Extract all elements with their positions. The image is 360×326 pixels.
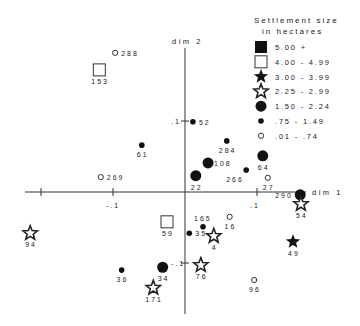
point-label: 266	[226, 176, 244, 183]
legend-entry: .01 - .74	[258, 132, 318, 141]
small-dot-marker	[187, 230, 193, 236]
legend-entry: 2.25 - 2.99	[254, 84, 331, 98]
data-point-49: 49	[286, 234, 300, 257]
data-point-36: 36	[117, 267, 129, 283]
legend-label: 5.00 +	[275, 43, 307, 52]
large-dot-marker	[203, 157, 214, 168]
data-point-64: 64	[257, 150, 269, 171]
small-dot-marker	[139, 142, 145, 148]
legend-entry: 3.00 - 3.99	[254, 69, 331, 83]
small-dot-legend-icon	[258, 118, 264, 124]
legend-entries: 5.00 +4.00 - 4.993.00 - 3.992.25 - 2.991…	[254, 41, 331, 141]
legend-label: 1.50 - 2.24	[275, 102, 331, 111]
y-tick-label: .1	[171, 118, 181, 125]
legend-entry: 5.00 +	[255, 41, 307, 53]
filled-square-legend-icon	[255, 41, 267, 53]
hollow-star-marker	[146, 280, 160, 294]
data-point-35: 35	[187, 230, 208, 237]
x-tick-label: .1	[250, 202, 260, 209]
legend-label: 2.25 - 2.99	[275, 87, 331, 96]
data-point-59: 59	[161, 216, 174, 237]
legend-label: .75 - 1.49	[275, 117, 325, 126]
hollow-circle-marker	[113, 50, 118, 55]
large-dot-marker	[190, 170, 201, 181]
point-label: 288	[121, 50, 139, 57]
point-label: 54	[296, 212, 308, 219]
point-label: 290	[275, 192, 293, 199]
y-tick-label: -.1	[171, 260, 185, 267]
hollow-star-legend-icon	[254, 84, 268, 98]
hollow-star-marker	[294, 197, 308, 211]
point-label: 64	[258, 164, 270, 171]
point-label: 59	[162, 230, 174, 237]
point-label: 96	[249, 286, 261, 293]
small-dot-marker	[224, 138, 230, 144]
data-point-61: 61	[137, 142, 149, 158]
legend-label: 4.00 - 4.99	[275, 58, 331, 67]
hollow-circle-marker	[98, 174, 103, 179]
point-label: 153	[91, 78, 109, 85]
filled-star-marker	[286, 234, 300, 248]
data-point-108: 108	[203, 157, 232, 168]
hollow-square-legend-icon	[255, 56, 267, 68]
small-dot-marker	[190, 119, 196, 125]
point-label: 49	[288, 250, 300, 257]
point-label: 27	[263, 184, 275, 191]
data-point-288: 288	[113, 50, 139, 57]
large-dot-marker	[157, 262, 168, 273]
legend-entry: 4.00 - 4.99	[255, 56, 331, 68]
data-point-153: 153	[91, 64, 109, 85]
y-axis-label: dim 2	[172, 37, 203, 46]
data-point-266: 266	[226, 167, 249, 183]
point-label: 61	[137, 151, 149, 158]
large-dot-legend-icon	[256, 101, 267, 112]
point-label: 165	[194, 215, 212, 222]
point-label: 269	[107, 174, 125, 181]
data-points: 2881535261284108642226626927290544994591…	[23, 50, 308, 303]
point-label: 16	[225, 223, 237, 230]
legend-label: .01 - .74	[275, 132, 319, 141]
point-label: 34	[158, 275, 170, 282]
point-label: 284	[219, 147, 237, 154]
point-label: 4	[212, 244, 218, 251]
hollow-square-marker	[93, 64, 105, 76]
hollow-circle-marker	[265, 175, 270, 180]
data-point-171: 171	[145, 280, 163, 303]
hollow-square-marker	[161, 216, 173, 228]
data-point-269: 269	[98, 174, 124, 181]
data-point-94: 94	[23, 226, 37, 249]
legend-label: 3.00 - 3.99	[275, 73, 331, 82]
hollow-star-marker	[23, 226, 37, 240]
data-point-52: 52	[190, 119, 211, 126]
small-dot-marker	[119, 267, 125, 273]
x-tick-label: -.1	[106, 202, 120, 209]
small-dot-marker	[243, 167, 249, 173]
point-label: 76	[196, 273, 208, 280]
small-dot-marker	[200, 224, 206, 230]
data-point-4: 4	[207, 229, 221, 251]
data-point-27: 27	[263, 175, 275, 191]
data-point-165: 165	[194, 215, 212, 230]
hollow-circle-marker	[227, 214, 232, 219]
point-label: 171	[145, 296, 163, 303]
point-label: 35	[195, 230, 207, 237]
hollow-star-marker	[194, 258, 208, 272]
x-axis-label: dim 1	[312, 188, 343, 197]
point-label: 52	[199, 119, 211, 126]
legend-entry: 1.50 - 2.24	[256, 101, 331, 112]
legend-entry: .75 - 1.49	[258, 117, 325, 126]
point-label: 94	[25, 241, 37, 248]
legend-title-line-2: in hectares	[262, 27, 323, 36]
data-point-16: 16	[225, 214, 237, 230]
data-point-34: 34	[157, 262, 169, 283]
hollow-star-marker	[207, 229, 221, 243]
legend-title-line-1: Settlement size	[254, 16, 339, 25]
data-point-76: 76	[194, 258, 208, 280]
point-label: 22	[191, 184, 203, 191]
scatter-chart: dim 1 dim 2 -.1.1.1-.1 28815352612841086…	[0, 0, 360, 326]
data-point-22: 22	[190, 170, 202, 191]
point-label: 36	[117, 276, 129, 283]
data-point-54: 54	[294, 197, 308, 220]
filled-star-legend-icon	[254, 69, 268, 83]
legend: Settlement size in hectares 5.00 +4.00 -…	[254, 16, 339, 141]
